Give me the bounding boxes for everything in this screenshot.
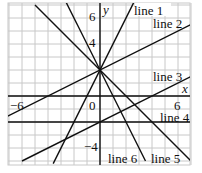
line2-label: line 2 xyxy=(153,16,182,31)
tick-y-4: 4 xyxy=(89,35,96,50)
line3-label: line 3 xyxy=(153,69,182,84)
line6-label: line 6 xyxy=(108,151,138,166)
tick-x-0: 0 xyxy=(89,98,96,113)
tick-y-6: 6 xyxy=(89,9,96,24)
tick-y-neg4: −4 xyxy=(84,139,98,154)
line5-label: line 5 xyxy=(151,151,180,166)
y-axis-label: y xyxy=(101,2,109,17)
line-chart: x y −6 0 6 6 4 −4 line 1 line 2 line 3 l… xyxy=(0,0,202,173)
tick-x-neg6: −6 xyxy=(10,98,24,113)
line4-label: line 4 xyxy=(160,110,190,125)
